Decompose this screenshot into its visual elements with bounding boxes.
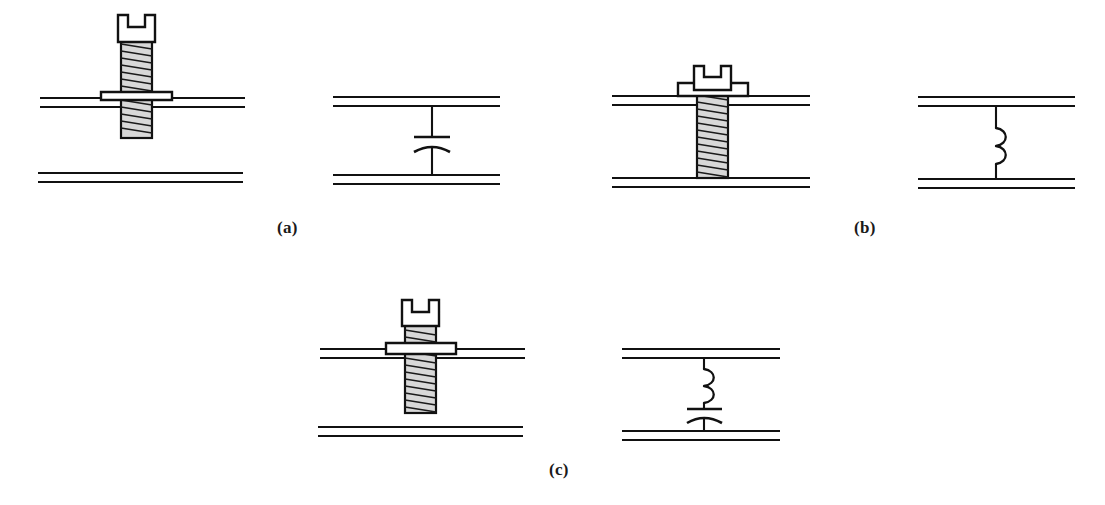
panel-c-circuit-lower-conductor [622,431,780,440]
figure-root: (a) [0,0,1105,505]
panel-c-circuit-diagram [0,0,1105,505]
panel-c-inductor-symbol [704,358,714,409]
panel-label-c: (c) [549,460,569,480]
panel-c-capacitor-symbol [687,409,722,431]
panel-c-circuit-upper-conductor [622,349,780,358]
